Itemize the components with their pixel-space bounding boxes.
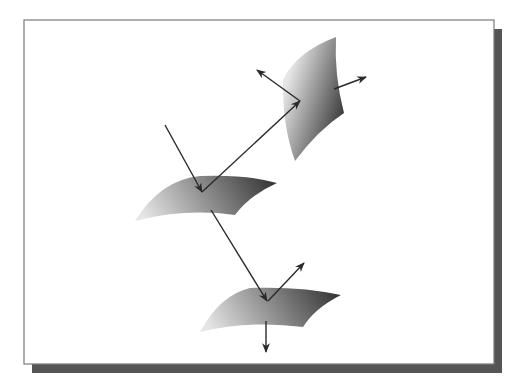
ray-surface-diagram [0,0,529,387]
